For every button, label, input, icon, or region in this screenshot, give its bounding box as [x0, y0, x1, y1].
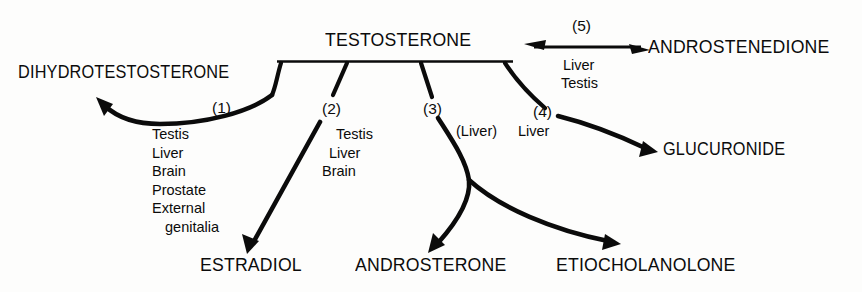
tissue-item: Testis: [152, 126, 219, 142]
branch-stem-2: [333, 63, 347, 95]
tissue-label-liver-step4: Liver: [518, 124, 549, 139]
tissue-list-dihydrotestosterone: Testis Liver Brain Prostate External gen…: [152, 126, 219, 237]
step-label-2: (2): [322, 101, 341, 117]
node-androsterone: ANDROSTERONE: [355, 255, 506, 274]
node-dihydrotestosterone: DIHYDROTESTOSTERONE: [18, 64, 229, 82]
tissue-label-liver-step3: (Liver): [456, 124, 497, 139]
tissue-label-testis-step5: Testis: [561, 76, 598, 91]
tissue-item: External: [152, 200, 219, 216]
tissue-label-liver-step5: Liver: [563, 58, 594, 73]
arrow-path-etiocholanolone: [469, 180, 608, 241]
tissue-item: Testis: [336, 126, 373, 142]
node-testosterone: TESTOSTERONE: [325, 30, 471, 49]
tissue-item: Brain: [322, 163, 373, 179]
arrow-path-dihydrotestosterone: [105, 95, 272, 124]
tissue-item: genitalia: [152, 219, 219, 235]
branch-stem-1: [272, 63, 281, 95]
branch-stem-3: [421, 63, 432, 97]
step-label-5: (5): [572, 18, 591, 34]
arrowhead-glucuronide: [639, 141, 658, 157]
step-label-3: (3): [423, 101, 442, 117]
tissue-list-estradiol: Testis Liver Brain: [336, 126, 373, 182]
arrowhead-etiocholanolone: [602, 234, 621, 250]
tissue-item: Brain: [152, 163, 219, 179]
tissue-item: Liver: [152, 145, 219, 161]
tissue-item: Prostate: [152, 182, 219, 198]
metabolism-diagram: TESTOSTERONE DIHYDROTESTOSTERONE ANDROST…: [0, 0, 862, 292]
step-label-4: (4): [533, 104, 552, 120]
step-label-1: (1): [212, 100, 231, 116]
node-glucuronide: GLUCURONIDE: [663, 141, 785, 159]
arrow-path-estradiol: [253, 122, 320, 243]
tissue-item: Liver: [329, 145, 373, 161]
branch-stem-4: [505, 63, 545, 108]
arrow-path-glucuronide: [558, 116, 645, 148]
node-androstenedione: ANDROSTENEDIONE: [648, 37, 829, 56]
node-etiocholanolone: ETIOCHOLANOLONE: [556, 255, 736, 274]
node-estradiol: ESTRADIOL: [200, 255, 302, 274]
